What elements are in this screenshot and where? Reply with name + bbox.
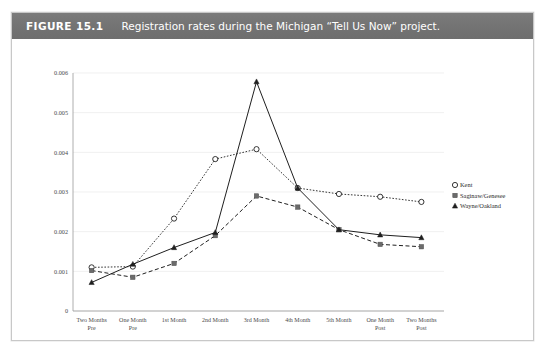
- y-axis-tick-label: 0.002: [54, 228, 68, 235]
- legend-item-kent[interactable]: Kent: [452, 181, 472, 188]
- data-point-marker-filled-square: [131, 275, 135, 279]
- data-point-marker-open-circle: [419, 199, 424, 204]
- x-axis-tick-label: Two Months: [406, 317, 437, 323]
- data-point-marker-open-circle: [378, 194, 383, 199]
- series-line: [92, 196, 422, 277]
- series-line: [92, 82, 422, 283]
- legend-item-saginaw-genesee[interactable]: Saginaw/Genesee: [453, 192, 506, 199]
- chart-series-layer: [89, 79, 424, 285]
- x-axis-tick-label: 1st Month: [162, 317, 187, 323]
- data-point-marker-filled-triangle: [213, 230, 218, 235]
- x-axis-tick-labels: Two MonthsPreOne MonthPre1st Month2nd Mo…: [76, 317, 437, 331]
- series-wayne-oakland: [89, 79, 424, 285]
- y-axis-tick-label: 0.006: [54, 69, 68, 76]
- x-axis-tick-label: One Month: [119, 317, 147, 323]
- data-point-marker-filled-square: [296, 205, 300, 209]
- chart-gridlines: [73, 73, 444, 311]
- data-point-marker-filled-square: [419, 245, 423, 249]
- legend-label: Saginaw/Genesee: [460, 192, 506, 199]
- x-axis-tick-label: Two Months: [76, 317, 107, 323]
- data-point-marker-filled-square: [453, 193, 457, 197]
- y-axis-tick-labels: 00.0010.0020.0030.0040.0050.006: [54, 69, 68, 314]
- x-axis-tick-label: 2nd Month: [202, 317, 229, 323]
- x-axis-tick-label: One Month: [366, 317, 394, 323]
- data-point-marker-open-circle: [213, 156, 218, 161]
- legend-item-wayne-oakland[interactable]: Wayne/Oakland: [452, 202, 501, 209]
- data-point-marker-filled-triangle: [254, 79, 259, 84]
- x-axis-tick-label: Post: [375, 325, 386, 331]
- y-axis-tick-label: 0.001: [54, 268, 68, 275]
- chart-plot-area: 00.0010.0020.0030.0040.0050.006 Two Mont…: [12, 39, 534, 341]
- figure-header-bar: FIGURE 15.1 Registration rates during th…: [12, 13, 534, 39]
- data-point-marker-filled-triangle: [452, 203, 457, 208]
- y-axis-tick-label: 0.003: [54, 188, 68, 195]
- chart-legend: KentSaginaw/GeneseeWayne/Oakland: [452, 181, 505, 209]
- x-axis-tick-label: 4th Month: [285, 317, 310, 323]
- series-saginaw-genesee: [89, 194, 423, 280]
- y-axis-tick-label: 0: [65, 307, 68, 314]
- legend-label: Wayne/Oakland: [460, 202, 502, 209]
- figure-caption: Registration rates during the Michigan “…: [121, 20, 440, 32]
- x-axis-tick-label: Pre: [88, 325, 96, 331]
- legend-label: Kent: [460, 181, 473, 188]
- series-kent: [89, 147, 424, 270]
- y-axis-tick-label: 0.005: [54, 109, 68, 116]
- figure-number-label: FIGURE 15.1: [26, 20, 103, 32]
- data-point-marker-open-circle: [171, 216, 176, 221]
- data-point-marker-filled-square: [254, 194, 258, 198]
- y-axis-tick-label: 0.004: [54, 149, 68, 156]
- figure-container: FIGURE 15.1 Registration rates during th…: [11, 12, 534, 341]
- data-point-marker-open-circle: [336, 191, 341, 196]
- data-point-marker-filled-square: [172, 261, 176, 265]
- x-axis-tick-label: Post: [416, 325, 427, 331]
- series-line: [92, 149, 422, 267]
- line-chart: 00.0010.0020.0030.0040.0050.006 Two Mont…: [12, 39, 534, 341]
- data-point-marker-filled-square: [378, 242, 382, 246]
- data-point-marker-open-circle: [452, 182, 457, 187]
- x-axis-tick-label: Pre: [129, 325, 137, 331]
- x-axis-tick-label: 5th Month: [326, 317, 351, 323]
- data-point-marker-open-circle: [254, 147, 259, 152]
- x-axis-tick-label: 3rd Month: [244, 317, 270, 323]
- data-point-marker-filled-square: [89, 268, 93, 272]
